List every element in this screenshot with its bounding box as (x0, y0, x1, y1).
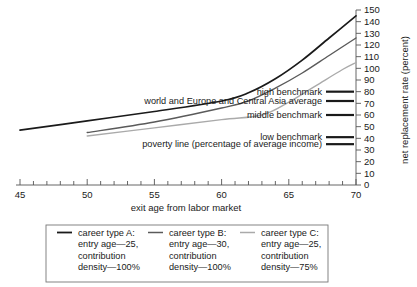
x-tick-label: 45 (15, 189, 26, 200)
benchmark-label: poverty line (percentage of average inco… (142, 139, 322, 149)
y-axis: 0102030405060708090100110120130140150 ne… (356, 4, 410, 190)
x-tick-label: 65 (284, 189, 295, 200)
benchmark-label: middle benchmark (247, 110, 322, 120)
x-tick-label: 50 (82, 189, 93, 200)
legend-entry-text: entry age—30, (169, 239, 229, 249)
x-tick-label: 70 (351, 189, 362, 200)
y-tick-label: 140 (364, 16, 380, 27)
x-axis: 455055606570 exit age from labor market (15, 179, 362, 213)
y-tick-label: 50 (364, 121, 375, 132)
legend-entry-text: career type A: (78, 228, 135, 238)
net-replacement-rate-line-chart: 0102030405060708090100110120130140150 ne… (0, 0, 417, 287)
legend-entry-text: contribution (261, 251, 309, 261)
legend-entry-text: density—100% (78, 262, 140, 272)
y-tick-label: 60 (364, 109, 375, 120)
y-tick-label: 150 (364, 4, 380, 15)
x-tick-label: 60 (216, 189, 227, 200)
x-axis-ticks (20, 179, 356, 185)
y-axis-ticks (356, 10, 361, 185)
y-axis-title: net replacement rate (percent) (399, 36, 410, 164)
y-tick-label: 0 (364, 179, 369, 190)
x-axis-title: exit age from labor market (131, 202, 242, 213)
x-tick-label: 55 (149, 189, 160, 200)
y-tick-label: 70 (364, 98, 375, 109)
y-axis-tick-labels: 0102030405060708090100110120130140150 (364, 4, 380, 190)
legend-entry-text: contribution (78, 251, 126, 261)
legend-entry-text: entry age—25, (261, 239, 321, 249)
y-tick-label: 40 (364, 133, 375, 144)
legend-entry-text: career type B: (169, 228, 226, 238)
y-tick-label: 80 (364, 86, 375, 97)
y-tick-label: 110 (364, 51, 379, 62)
benchmark-label: world and Europe and Central Asia averag… (143, 96, 322, 106)
y-tick-label: 120 (364, 39, 380, 50)
legend-entry-text: density—75% (261, 262, 318, 272)
x-axis-tick-labels: 455055606570 (15, 189, 362, 200)
legend-entry-text: density—100% (169, 262, 231, 272)
y-tick-label: 90 (364, 74, 375, 85)
y-tick-label: 100 (364, 63, 380, 74)
y-tick-label: 20 (364, 156, 375, 167)
chart-legend: career type A:entry age—25,contributiond… (46, 225, 328, 282)
chart-figure: 0102030405060708090100110120130140150 ne… (0, 0, 417, 287)
legend-entry-text: entry age—25, (78, 239, 138, 249)
y-tick-label: 10 (364, 168, 375, 179)
legend-entry-text: contribution (169, 251, 217, 261)
legend-entries: career type A:entry age—25,contributiond… (57, 228, 321, 272)
legend-entry-text: career type C: (261, 228, 319, 238)
y-tick-label: 130 (364, 28, 380, 39)
y-tick-label: 30 (364, 144, 375, 155)
